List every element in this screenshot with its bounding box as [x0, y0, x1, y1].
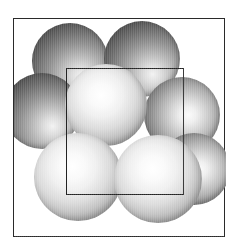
unit-cell-outline: [66, 68, 184, 195]
figure-root: [0, 0, 236, 245]
figure-frame-border: [13, 18, 225, 237]
sphere-stage: [14, 19, 226, 238]
